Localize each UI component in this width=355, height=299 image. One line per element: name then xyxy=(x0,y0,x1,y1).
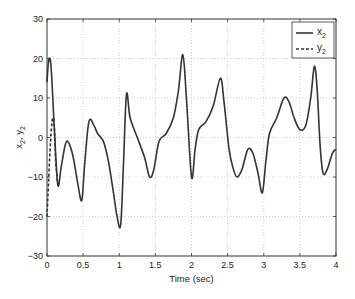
x-tick-label: 0 xyxy=(44,260,49,270)
x-tick-label: 4 xyxy=(333,260,338,270)
y-tick-label: 10 xyxy=(33,93,43,103)
y-tick-label: −10 xyxy=(28,172,43,182)
x-tick-label: 3 xyxy=(261,260,266,270)
x-tick-label: 1.5 xyxy=(149,260,162,270)
y-label-y-sub: 2 xyxy=(19,126,26,130)
legend: x2 y2 xyxy=(292,22,334,58)
x-tick-label: 2.5 xyxy=(221,260,234,270)
x-tick-label: 0.5 xyxy=(77,260,90,270)
series-line-x2 xyxy=(47,55,336,228)
x-axis-label: Time (sec) xyxy=(169,273,214,284)
y-axis-label: x2, y2 xyxy=(13,126,26,149)
y-tick-label: 0 xyxy=(38,133,43,143)
y-tick-label: −20 xyxy=(28,212,43,222)
line-chart: 00.511.522.533.543020100−10−20−30 Time (… xyxy=(0,0,355,299)
data-series xyxy=(47,55,336,228)
y-tick-label: 30 xyxy=(33,14,43,24)
x-tick-label: 2 xyxy=(189,260,194,270)
y-tick-label: −30 xyxy=(28,251,43,261)
x-tick-label: 1 xyxy=(117,260,122,270)
legend-box xyxy=(292,22,334,58)
x-tick-label: 3.5 xyxy=(294,260,307,270)
y-tick-label: 20 xyxy=(33,54,43,64)
